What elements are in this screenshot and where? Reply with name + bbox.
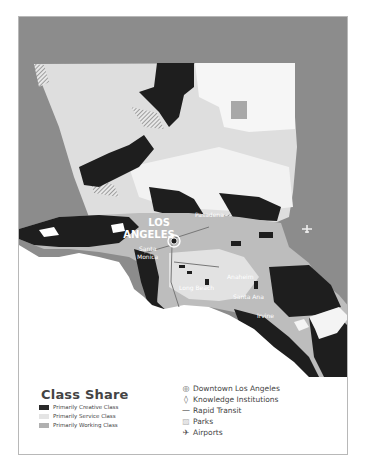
target-icon: ◎ [181, 384, 191, 393]
legend-label: Rapid Transit [193, 406, 241, 415]
legend-label: Parks [193, 417, 213, 426]
label-anaheim: Anaheim [227, 273, 254, 280]
label-santa-ana: Santa Ana [233, 293, 264, 300]
legend-transit: — Rapid Transit [181, 405, 280, 416]
symbol-legend: ◎ Downtown Los Angeles ◊ Knowledge Insti… [181, 383, 280, 438]
legend-label: Primarily Creative Class [53, 404, 118, 410]
legend-label: Downtown Los Angeles [193, 384, 280, 393]
service-swatch [39, 414, 49, 419]
label-long-beach: Long Beach [179, 284, 214, 292]
legend-parks: ▨ Parks [181, 416, 280, 427]
legend-item-service: Primarily Service Class [39, 412, 129, 420]
creative-swatch [39, 405, 49, 410]
parks-hatch-icon: ▨ [181, 417, 191, 426]
class-share-legend: Class Share Primarily Creative Class Pri… [39, 387, 129, 429]
legend-label: Airports [193, 428, 223, 437]
legend-downtown: ◎ Downtown Los Angeles [181, 383, 280, 394]
working-block-ne [231, 101, 247, 119]
legend-item-working: Primarily Working Class [39, 421, 129, 429]
label-angeles: ANGELES [123, 229, 175, 240]
legend-airports: ✈ Airports [181, 427, 280, 438]
legend-knowledge: ◊ Knowledge Institutions [181, 394, 280, 405]
knowledge-icon: ◊ [181, 395, 191, 404]
map-frame: LOS ANGELES Pasadena Santa Monica Long B… [18, 16, 348, 455]
legend-label: Knowledge Institutions [193, 395, 278, 404]
legend-title: Class Share [41, 387, 129, 402]
label-monica: Monica [137, 253, 159, 260]
legend-label: Primarily Service Class [53, 413, 116, 419]
label-irvine: Irvine [257, 312, 274, 319]
airplane-icon: ✈ [181, 428, 191, 437]
working-swatch [39, 423, 49, 428]
legend-label: Primarily Working Class [53, 422, 118, 428]
label-los: LOS [148, 217, 170, 228]
transit-line-icon: — [181, 406, 191, 415]
class-share-map: LOS ANGELES Pasadena Santa Monica Long B… [19, 17, 348, 377]
label-santa: Santa [139, 245, 157, 252]
legend-item-creative: Primarily Creative Class [39, 403, 129, 411]
label-pasadena: Pasadena [195, 211, 224, 218]
